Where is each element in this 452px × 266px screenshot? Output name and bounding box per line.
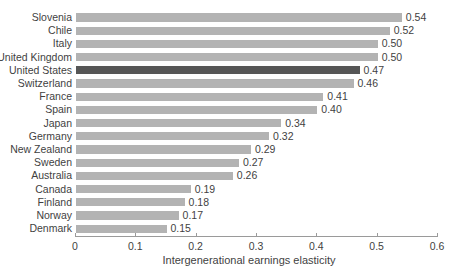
bar (76, 145, 251, 153)
category-label: Switzerland (18, 77, 72, 90)
category-label: Spain (45, 103, 72, 116)
bar-value-label: 0.29 (255, 143, 275, 156)
bar (76, 119, 281, 127)
bar-row: Australia0.26 (0, 169, 452, 182)
bar-row: Finland0.18 (0, 196, 452, 209)
bar-row: France0.41 (0, 90, 452, 103)
x-tick-label: 0.6 (430, 240, 445, 252)
category-label: Norway (36, 209, 72, 222)
x-tick-mark (316, 233, 317, 237)
bar-value-label: 0.15 (171, 222, 191, 235)
bar (76, 53, 378, 61)
category-label: United States (9, 64, 72, 77)
category-label: Australia (31, 169, 72, 182)
category-label: Finland (38, 196, 72, 209)
bar-row: Canada0.19 (0, 183, 452, 196)
bar-value-label: 0.34 (285, 117, 305, 130)
bar-row: Denmark0.15 (0, 222, 452, 235)
bar-value-label: 0.19 (195, 183, 215, 196)
bar (76, 211, 179, 219)
bar-row: Germany0.32 (0, 130, 452, 143)
bar (76, 198, 185, 206)
category-label: France (39, 90, 72, 103)
category-label: Sweden (34, 156, 72, 169)
bar-value-label: 0.18 (189, 196, 209, 209)
category-label: Denmark (29, 222, 72, 235)
bar (76, 27, 390, 35)
x-tick-label: 0.1 (128, 240, 143, 252)
bar (76, 79, 354, 87)
x-tick-label: 0.4 (309, 240, 324, 252)
bar-value-label: 0.50 (382, 37, 402, 50)
bar-value-label: 0.32 (273, 130, 293, 143)
bar-row: Norway0.17 (0, 209, 452, 222)
x-tick-mark (196, 233, 197, 237)
x-axis-title-label: Intergenerational earnings elasticity (162, 254, 335, 266)
category-label: Germany (29, 130, 72, 143)
bar (76, 106, 317, 114)
bar (76, 132, 269, 140)
category-label: Canada (35, 183, 72, 196)
category-label: United Kingdom (0, 51, 72, 64)
category-label: Japan (43, 117, 72, 130)
bar-value-label: 0.27 (243, 156, 263, 169)
x-tick-label: 0.5 (369, 240, 384, 252)
category-label: New Zealand (10, 143, 72, 156)
bar-value-label: 0.26 (237, 169, 257, 182)
bar-row: Italy0.50 (0, 37, 452, 50)
x-tick-label: 0.2 (188, 240, 203, 252)
bar-highlighted (76, 66, 360, 74)
bar-row: Switzerland0.46 (0, 77, 452, 90)
category-label: Slovenia (32, 11, 72, 24)
category-label: Chile (48, 24, 72, 37)
x-tick-mark (256, 233, 257, 237)
bar (76, 225, 167, 233)
bar (76, 172, 233, 180)
bar (76, 159, 239, 167)
bar-value-label: 0.40 (321, 103, 341, 116)
bar-value-label: 0.46 (358, 77, 378, 90)
x-tick-mark (377, 233, 378, 237)
x-tick-label: 0 (72, 240, 78, 252)
x-tick-mark (437, 233, 438, 237)
bar-row: Spain0.40 (0, 103, 452, 116)
bar-row: Sweden0.27 (0, 156, 452, 169)
category-label: Italy (53, 37, 72, 50)
x-tick-mark (75, 233, 76, 237)
bar-value-label: 0.54 (406, 11, 426, 24)
bar-row: Japan0.34 (0, 117, 452, 130)
bar-value-label: 0.47 (364, 64, 384, 77)
x-tick-label: 0.3 (249, 240, 264, 252)
bar-value-label: 0.50 (382, 51, 402, 64)
bar-row: Slovenia0.54 (0, 11, 452, 24)
x-tick-mark (135, 233, 136, 237)
bar-value-label: 0.41 (327, 90, 347, 103)
bar-row: Chile0.52 (0, 24, 452, 37)
bar (76, 40, 378, 48)
bar-value-label: 0.52 (394, 24, 414, 37)
bar (76, 13, 402, 21)
bar-row: United States0.47 (0, 64, 452, 77)
bar-value-label: 0.17 (183, 209, 203, 222)
bar (76, 93, 323, 101)
x-axis-title: Intergenerational earnings elasticity (0, 254, 452, 266)
bar-row: New Zealand0.29 (0, 143, 452, 156)
bar-row: United Kingdom0.50 (0, 51, 452, 64)
bar (76, 185, 191, 193)
